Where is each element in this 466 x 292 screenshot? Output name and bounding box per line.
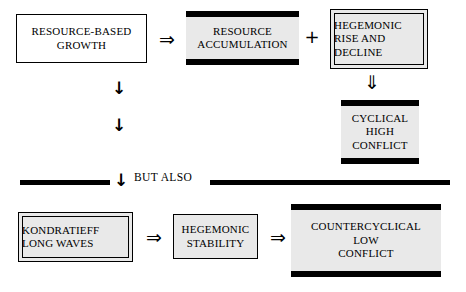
diagram-canvas: Resource-Based Growth ⇒ Resource Accumul… xyxy=(0,0,466,292)
box-line: Growth xyxy=(57,39,106,52)
box-line: Conflict xyxy=(352,139,407,152)
box-line: Stability xyxy=(187,237,245,250)
box-line: Accumulation xyxy=(197,38,287,51)
divider-label: But Also xyxy=(134,171,192,183)
box-line: Long Waves xyxy=(22,237,94,250)
box-hegemonic-rise-and-decline: Hegemonic Rise and Decline xyxy=(330,9,428,69)
box-line: Conflict xyxy=(338,247,393,260)
box-line: Decline xyxy=(334,46,382,59)
box-line: Cyclical xyxy=(352,112,409,125)
box-line: Resource-Based xyxy=(32,25,132,38)
arrow-down-double-icon: ⇓ xyxy=(362,71,382,93)
box-cyclical-high-conflict: Cyclical High Conflict xyxy=(341,100,419,164)
plus-icon: + xyxy=(303,26,321,48)
divider-rule-right xyxy=(210,180,450,185)
arrow-down-icon: ↓ xyxy=(109,115,129,135)
box-resource-accumulation: Resource Accumulation xyxy=(186,11,299,65)
arrow-down-icon: ↓ xyxy=(109,78,129,98)
arrow-right-icon: ⇒ xyxy=(137,226,171,248)
box-line: Hegemonic xyxy=(334,19,402,32)
box-line: Resource xyxy=(213,25,272,38)
divider-rule-left xyxy=(20,180,110,185)
box-kondratieff-long-waves: Kondratieff Long Waves xyxy=(18,212,133,262)
box-hegemonic-stability: Hegemonic Stability xyxy=(173,214,258,259)
box-resource-based-growth: Resource-Based Growth xyxy=(16,14,147,63)
box-line: High xyxy=(366,125,394,138)
arrow-right-icon: ⇒ xyxy=(150,28,184,50)
box-line: Rise and xyxy=(334,32,385,45)
box-countercyclical-low-conflict: Countercyclical Low Conflict xyxy=(291,204,441,277)
arrow-down-icon: ↓ xyxy=(111,170,131,190)
box-line: Low xyxy=(353,234,379,247)
box-line: Kondratieff xyxy=(22,224,99,237)
box-line: Hegemonic xyxy=(182,223,250,236)
box-line: Countercyclical xyxy=(311,220,421,233)
arrow-right-icon: ⇒ xyxy=(261,226,295,248)
